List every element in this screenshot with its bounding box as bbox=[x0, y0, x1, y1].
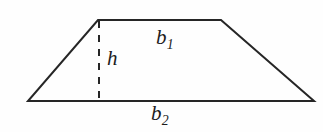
trapezoid-diagram: b1 h b2 bbox=[0, 0, 323, 132]
top-base-label-subscript: 1 bbox=[167, 37, 174, 52]
bottom-base-label-letter: b bbox=[151, 101, 162, 125]
bottom-base-label-subscript: 2 bbox=[162, 113, 169, 128]
bottom-base-label: b2 bbox=[151, 103, 169, 124]
top-base-label-letter: b bbox=[156, 25, 167, 49]
height-label-letter: h bbox=[107, 46, 118, 70]
height-label: h bbox=[107, 48, 118, 69]
top-base-label: b1 bbox=[156, 27, 174, 48]
